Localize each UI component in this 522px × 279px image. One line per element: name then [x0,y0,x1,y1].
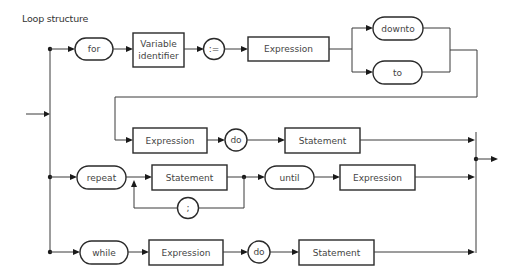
assign-label: := [209,44,220,54]
do-label: do [230,135,242,145]
until-label: until [280,173,300,183]
assign-operator: := [204,39,225,60]
semicolon-separator: ; [178,198,199,219]
while-do-keyword: do [248,241,270,263]
exit-arrow [476,156,498,162]
entry-arrow [26,111,50,117]
to-label: to [393,68,403,78]
expression-label: Expression [162,248,211,258]
repeat-label: repeat [87,173,117,183]
expression-label: Expression [353,173,402,183]
while-label: while [92,248,116,258]
while-statement-box: Statement [299,240,374,265]
repeat-statement-box: Statement [152,165,227,190]
expression-label: Expression [146,136,195,146]
for-expression-box: Expression [248,37,329,61]
until-keyword: until [265,166,314,189]
statement-label: Statement [299,136,347,146]
while-expression-box: Expression [149,240,223,265]
loop-syntax-diagram: for Variable identifier := Expression do… [0,0,522,279]
expression-label: Expression [264,44,313,54]
semicolon-label: ; [186,203,189,213]
statement-label: Statement [313,248,361,258]
for-keyword: for [75,38,113,60]
to-keyword: to [373,61,422,84]
downto-keyword: downto [373,17,423,40]
repeat-expression-box: Expression [340,165,415,190]
repeat-keyword: repeat [77,166,126,189]
variable-identifier-box: Variable identifier [133,33,184,67]
for-statement-box: Statement [285,128,360,153]
identifier-label: identifier [138,51,179,61]
while-keyword: while [80,241,128,264]
for-expression2-box: Expression [133,128,207,153]
downto-label: downto [381,24,415,34]
for-label: for [88,44,101,54]
variable-label: Variable [140,39,177,49]
for-do-keyword: do [225,129,247,151]
statement-label: Statement [166,173,214,183]
do-label: do [253,247,265,257]
